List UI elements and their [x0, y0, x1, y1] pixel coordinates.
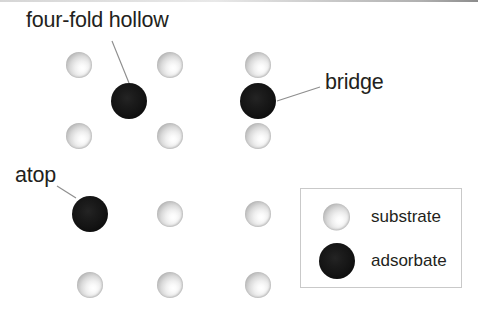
leader-line-bridge [277, 87, 320, 101]
annotation-four-fold-hollow: four-fold hollow [26, 10, 169, 32]
adsorbate-atom-atop [72, 196, 108, 232]
substrate-atom [66, 52, 92, 78]
substrate-atom [245, 123, 271, 149]
adsorption-site-diagram: four-fold hollow bridge atop substrate a… [0, 0, 478, 317]
substrate-atom [157, 201, 183, 227]
substrate-atom [77, 272, 103, 298]
adsorbate-atom-four-fold-hollow [111, 83, 147, 119]
legend-label-substrate: substrate [371, 207, 441, 227]
substrate-sphere-icon [323, 204, 350, 231]
legend-box: substrate adsorbate [300, 188, 462, 288]
legend-item-substrate: substrate [301, 195, 461, 239]
substrate-atom [157, 123, 183, 149]
substrate-atom [245, 272, 271, 298]
legend-label-adsorbate: adsorbate [371, 251, 447, 271]
substrate-atom [245, 52, 271, 78]
leader-line-atop [57, 186, 76, 198]
annotation-bridge: bridge [325, 72, 384, 94]
substrate-atom [245, 201, 271, 227]
annotation-atop: atop [15, 165, 56, 187]
leader-line-four-fold-hollow [112, 41, 129, 83]
scan-edge-line [0, 0, 478, 2]
substrate-atom [66, 123, 92, 149]
adsorbate-atom-bridge [240, 83, 276, 119]
legend-item-adsorbate: adsorbate [301, 239, 461, 283]
substrate-atom [157, 272, 183, 298]
adsorbate-sphere-icon [319, 243, 355, 279]
substrate-atom [157, 52, 183, 78]
